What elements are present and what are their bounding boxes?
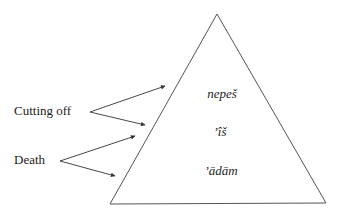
death-arrow-lower (60, 161, 115, 176)
term-adam: ’ādām (204, 163, 237, 179)
cutting-off-label: Cutting off (14, 103, 71, 119)
cutting-off-arrow-upper (90, 86, 165, 112)
term-ish: ’îš (214, 124, 227, 140)
cutting-off-arrow-lower (90, 112, 145, 125)
term-nepesh: nepeš (207, 86, 237, 102)
death-arrow-upper (60, 136, 135, 161)
death-label: Death (14, 152, 45, 168)
